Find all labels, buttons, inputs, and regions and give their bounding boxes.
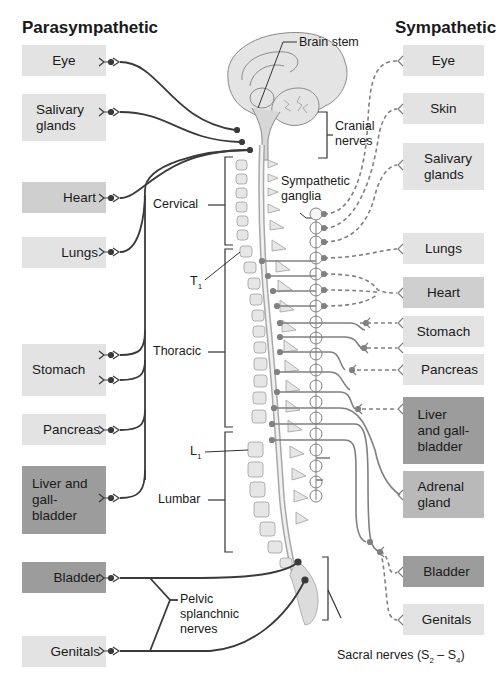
t1-label: T1 (190, 274, 202, 294)
sacrum (290, 560, 318, 625)
cervical-label: Cervical (153, 197, 198, 212)
thoracic-label: Thoracic (153, 344, 201, 359)
pelvic-splanchnic-label: Pelvic splanchnic nerves (180, 592, 250, 637)
nervous-system-diagram (0, 0, 502, 679)
t1-letter: T (190, 274, 198, 288)
l1-label: L1 (190, 444, 201, 464)
t1-subscript: 1 (198, 282, 202, 291)
cranial-nerves-label: Cranial nerves (335, 119, 385, 149)
sacral-nerves-label: Sacral nerves (S2 – S4) (337, 648, 465, 668)
l1-letter: L (190, 444, 197, 458)
sacral-dash: – S (434, 648, 456, 662)
l1-subscript: 1 (197, 452, 201, 461)
parasympathetic-nerves (120, 62, 305, 651)
brain-icon (228, 32, 347, 160)
sacral-text: Sacral nerves (S (337, 648, 429, 662)
sacral-close: ) (461, 648, 465, 662)
brain-stem-label: Brain stem (299, 35, 359, 50)
sympathetic-ganglia-label: Sympathetic ganglia (281, 174, 356, 204)
lumbar-label: Lumbar (158, 492, 200, 507)
parasympathetic-synapses (99, 58, 308, 655)
